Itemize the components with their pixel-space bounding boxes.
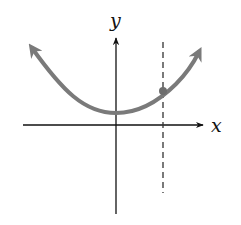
curve-point [159,87,167,95]
y-axis-label: y [109,9,121,31]
graph-canvas: y x [0,0,241,225]
x-axis-label: x [211,114,222,136]
